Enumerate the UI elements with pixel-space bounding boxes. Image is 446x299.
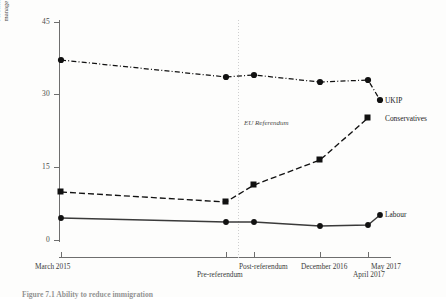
series-line-conservatives (61, 118, 368, 202)
y-tick-30 (54, 94, 59, 95)
x-tick-december-2016 (320, 252, 321, 258)
x-axis-line (59, 257, 391, 258)
x-tick-pre-referendum (226, 252, 227, 258)
marker-labour (251, 219, 257, 225)
y-tick-label-30: 30 (28, 89, 50, 98)
marker-conservatives (251, 182, 257, 188)
y-tick-0 (54, 240, 59, 241)
marker-ukip (317, 79, 323, 85)
marker-ukip (223, 74, 229, 80)
x-tick-march-2015 (61, 252, 62, 258)
x-label-may-2017: May 2017 (371, 262, 401, 271)
series-label-labour: Labour (385, 210, 406, 219)
marker-ukip (251, 72, 257, 78)
marker-labour (365, 222, 371, 228)
x-label-march-2015: March 2015 (35, 262, 70, 271)
marker-ukip (377, 97, 383, 103)
x-label-post-referendum: Post-referendum (239, 262, 288, 271)
y-axis-line (59, 20, 60, 242)
y-tick-label-15: 15 (28, 162, 50, 171)
series-line-labour (61, 215, 380, 226)
series-label-ukip: UKIP (385, 96, 402, 105)
x-label-december-2016: December 2016 (301, 262, 347, 271)
y-tick-45 (54, 22, 59, 23)
x-tick-april-2017 (368, 252, 369, 258)
figure-caption: Figure 7.1 Ability to reduce immigration (22, 290, 153, 299)
marker-ukip (365, 77, 371, 83)
marker-labour (377, 212, 383, 218)
eu-referendum-rule (238, 20, 239, 260)
y-axis-title: Percentage saying party would manage to … (0, 0, 10, 56)
y-axis-title-line2: manage to reduce immigration (2, 0, 10, 56)
series-line-ukip (61, 60, 380, 100)
marker-labour (317, 223, 323, 229)
x-label-april-2017: April 2017 (353, 270, 385, 279)
x-tick-post-referendum (254, 252, 255, 258)
marker-conservatives (365, 115, 371, 121)
series-label-conservatives: Conservatives (385, 114, 427, 123)
y-tick-label-45: 45 (28, 17, 50, 26)
y-tick-label-0: 0 (28, 235, 50, 244)
y-tick-15 (54, 167, 59, 168)
marker-conservatives (223, 199, 229, 205)
x-label-pre-referendum: Pre-referendum (197, 270, 243, 279)
eu-referendum-annotation: EU Referendum (244, 119, 289, 127)
marker-conservatives (317, 157, 323, 163)
marker-labour (223, 219, 229, 225)
